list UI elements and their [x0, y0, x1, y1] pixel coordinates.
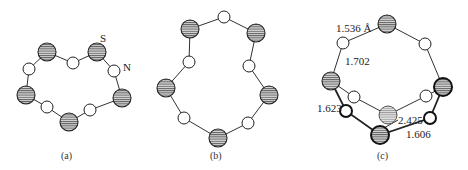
bond-length-label: 1.702 [345, 55, 370, 67]
sulfur-nitride-ring-diagram: S N (a) (b) [0, 0, 468, 170]
sulfur-atom [371, 126, 389, 144]
bond-length-label: 2.425 [398, 114, 423, 126]
bond-length-label: 1.623 [317, 102, 342, 114]
bond-length-label: 1.606 [406, 128, 431, 140]
sulfur-atom [322, 72, 340, 90]
nitrogen-atom [242, 117, 254, 129]
sulfur-atom [260, 86, 278, 104]
sulfur-atom [247, 24, 265, 42]
nitrogen-atom [340, 105, 352, 117]
sulfur-atom [60, 113, 78, 131]
sulfur-atom [209, 129, 227, 147]
sulfur-atom [434, 78, 452, 96]
nitrogen-atom [419, 38, 431, 50]
nitrogen-atom [23, 63, 35, 75]
nitrogen-atom [424, 112, 436, 124]
nitrogen-atom [348, 91, 360, 103]
sulfur-atom [378, 15, 396, 33]
sulfur-atom [17, 86, 35, 104]
nitrogen-atom [178, 112, 190, 124]
panel-c: 1.536 Å 1.702 1.623 2.425 1.606 (c) [317, 15, 452, 162]
nitrogen-atom [243, 60, 255, 72]
atom-label-n: N [123, 61, 131, 73]
sulfur-atom [181, 20, 199, 38]
nitrogen-atom [337, 37, 349, 49]
sulfur-atom [38, 43, 56, 61]
nitrogen-atom [67, 57, 79, 69]
nitrogen-atom [218, 11, 230, 23]
panel-caption-a: (a) [61, 150, 72, 162]
sulfur-atom [113, 89, 131, 107]
panel-a: S N (a) [17, 32, 131, 162]
sulfur-atom [157, 79, 175, 97]
panel-b: (b) [157, 11, 278, 162]
panel-caption-b: (b) [210, 150, 222, 162]
sulfur-atom [379, 106, 397, 124]
atom-label-s: S [100, 32, 106, 44]
nitrogen-atom [108, 65, 120, 77]
nitrogen-atom [420, 90, 432, 102]
nitrogen-atom [41, 101, 53, 113]
bond-length-label: 1.536 Å [336, 22, 372, 34]
panel-caption-c: (c) [377, 150, 388, 162]
nitrogen-atom [84, 104, 96, 116]
nitrogen-atom [183, 56, 195, 68]
sulfur-atom [88, 43, 106, 61]
